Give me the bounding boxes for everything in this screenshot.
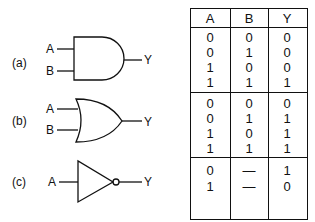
cell: 0: [268, 45, 306, 60]
cell: 1: [268, 141, 306, 156]
cell: 0: [191, 30, 229, 45]
cell: 0: [268, 179, 306, 194]
header-a: A: [191, 11, 229, 26]
cell: 0: [191, 96, 229, 111]
header-y: Y: [268, 11, 306, 26]
or-gate-icon: [57, 99, 142, 142]
cell: —: [230, 163, 268, 178]
cell: 1: [230, 111, 268, 126]
cell: 0: [191, 45, 229, 60]
cell: 0: [268, 96, 306, 111]
cell: 1: [268, 75, 306, 90]
cell: 0: [230, 30, 268, 45]
cell: 1: [191, 179, 229, 194]
cell: 0: [191, 111, 229, 126]
cell: 1: [191, 75, 229, 90]
cell: 1: [230, 45, 268, 60]
logic-gates-diagram: [0, 0, 170, 222]
cell: 0: [268, 60, 306, 75]
not-gate-icon: [59, 161, 142, 202]
cell: 1: [191, 141, 229, 156]
cell: 0: [268, 30, 306, 45]
cell: 0: [230, 126, 268, 141]
cell: 0: [191, 163, 229, 178]
cell: —: [230, 179, 268, 194]
cell: 0: [230, 60, 268, 75]
cell: 1: [230, 75, 268, 90]
cell: 1: [268, 163, 306, 178]
cell: 1: [268, 111, 306, 126]
cell: 1: [268, 126, 306, 141]
truth-table: A B Y 0 0 0 0 1 0 1 0 0 1 1 1 0 0 0 0 1 …: [190, 8, 308, 220]
header-b: B: [230, 11, 268, 26]
cell: 1: [230, 141, 268, 156]
and-gate-icon: [57, 37, 142, 80]
cell: 1: [191, 126, 229, 141]
cell: 0: [230, 96, 268, 111]
cell: 1: [191, 60, 229, 75]
